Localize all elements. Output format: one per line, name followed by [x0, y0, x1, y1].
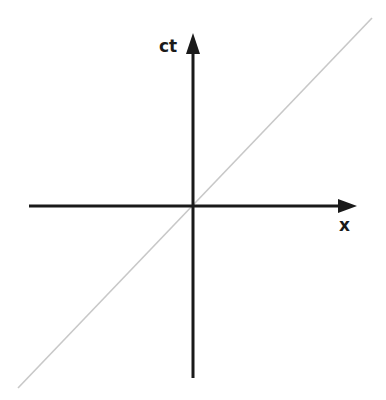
spacetime-diagram: ct x — [0, 0, 386, 400]
x-axis-label: x — [339, 215, 350, 235]
ct-axis-label: ct — [159, 36, 177, 56]
ct-axis-arrow-icon — [186, 33, 200, 54]
x-axis-arrow-icon — [338, 199, 357, 213]
light-line — [18, 18, 372, 388]
